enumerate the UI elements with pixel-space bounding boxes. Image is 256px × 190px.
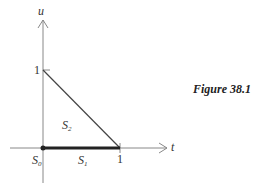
s0-point bbox=[41, 146, 46, 151]
s2-label: S2 bbox=[62, 119, 72, 133]
s1-sub: 1 bbox=[84, 160, 88, 168]
figure-caption: Figure 38.1 bbox=[193, 82, 251, 97]
t-tick-label: 1 bbox=[117, 153, 123, 165]
t-axis-label: t bbox=[171, 141, 174, 153]
u-axis-label: u bbox=[38, 5, 44, 17]
s0-label: S0 bbox=[32, 154, 42, 168]
hypotenuse-edge bbox=[43, 70, 120, 148]
u-tick-label: 1 bbox=[34, 64, 40, 76]
s0-sub: 0 bbox=[38, 160, 42, 168]
s1-label: S1 bbox=[78, 154, 88, 168]
s2-sub: 2 bbox=[68, 125, 72, 133]
figure-38-1: u t 1 1 S0 S1 S2 Figure 38.1 bbox=[0, 0, 256, 190]
